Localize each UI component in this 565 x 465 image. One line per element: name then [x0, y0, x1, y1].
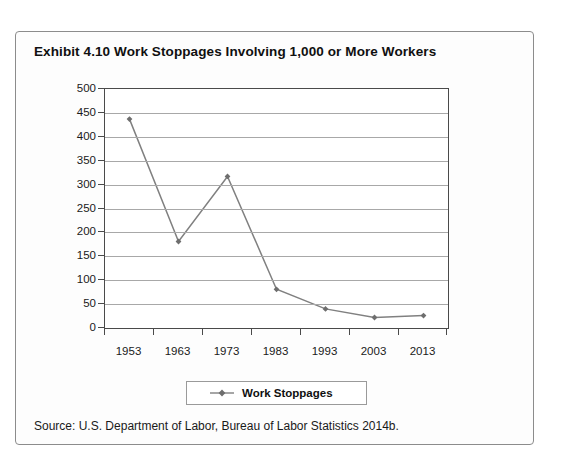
gridline	[105, 256, 448, 257]
x-axis-tick-mark	[153, 329, 154, 335]
gridline	[105, 161, 448, 162]
series-data-point	[127, 116, 133, 122]
series-data-point	[421, 313, 427, 319]
y-axis-tick-label: 50	[60, 297, 96, 309]
y-axis-tick-label: 200	[60, 225, 96, 237]
gridline	[105, 185, 448, 186]
x-axis-tick-marks	[104, 329, 449, 336]
chart-plot-wrapper: 050100150200250300350400450500 195319631…	[16, 80, 535, 370]
legend-item-label: Work Stoppages	[242, 387, 333, 399]
y-axis-tick-label: 250	[60, 202, 96, 214]
legend-item-work-stoppages: Work Stoppages	[209, 382, 333, 404]
x-axis-tick-label: 1993	[312, 345, 338, 357]
x-axis-tick-label: 1983	[263, 345, 289, 357]
series-data-point	[274, 286, 280, 292]
gridline	[105, 280, 448, 281]
y-axis-tick-label: 300	[60, 178, 96, 190]
y-axis-tick-label: 100	[60, 273, 96, 285]
series-data-point	[372, 315, 378, 321]
y-axis-tick-label: 500	[60, 82, 96, 94]
x-axis-tick-label: 1973	[214, 345, 240, 357]
x-axis-tick-mark	[104, 329, 105, 335]
gridline	[105, 304, 448, 305]
legend-marker-icon	[209, 387, 235, 399]
chart-legend: Work Stoppages	[186, 381, 367, 405]
series-data-point	[323, 306, 329, 312]
x-axis-tick-mark	[349, 329, 350, 335]
source-note: Source: U.S. Department of Labor, Bureau…	[34, 419, 399, 433]
y-axis-tick-label: 450	[60, 106, 96, 118]
x-axis-tick-mark	[398, 329, 399, 335]
gridline	[105, 113, 448, 114]
page-title: Exhibit 4.10 Work Stoppages Involving 1,…	[34, 44, 436, 59]
x-axis-tick-label: 1963	[165, 345, 191, 357]
y-axis-tick-labels: 050100150200250300350400450500	[50, 88, 96, 329]
gridline	[105, 137, 448, 138]
y-axis-tick-label: 0	[60, 321, 96, 333]
y-axis-tick-label: 400	[60, 130, 96, 142]
gridline	[105, 232, 448, 233]
x-axis-tick-mark	[251, 329, 252, 335]
x-axis-tick-label: 2003	[361, 345, 387, 357]
x-axis-tick-labels: 1953196319731983199320032013	[104, 345, 449, 363]
exhibit-frame: Exhibit 4.10 Work Stoppages Involving 1,…	[15, 31, 534, 445]
x-axis-tick-mark	[202, 329, 203, 335]
x-axis-tick-mark	[446, 329, 447, 335]
y-axis-tick-label: 150	[60, 249, 96, 261]
x-axis-tick-label: 1953	[116, 345, 142, 357]
gridline	[105, 209, 448, 210]
y-axis-tick-label: 350	[60, 154, 96, 166]
x-axis-tick-label: 2013	[410, 345, 436, 357]
plot-area	[104, 88, 449, 329]
x-axis-tick-mark	[300, 329, 301, 335]
